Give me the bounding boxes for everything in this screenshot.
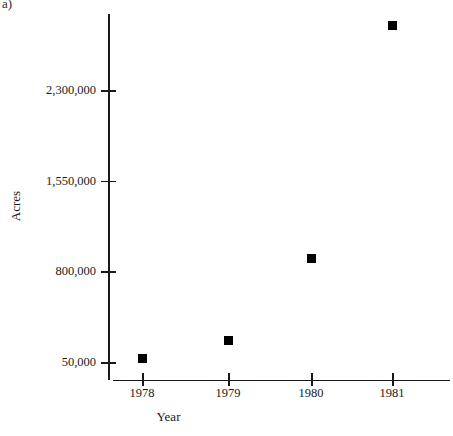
scatter-chart: a) 50,000 800,000 1,550,000 2,300,000 19… xyxy=(0,0,453,436)
x-tick-mark xyxy=(311,373,313,386)
x-tick-label: 1981 xyxy=(362,386,422,401)
x-axis-title-text: Year xyxy=(157,409,181,424)
y-tick-label: 2,300,000 xyxy=(46,83,96,98)
y-tick-mark xyxy=(101,181,116,183)
y-tick-mark xyxy=(101,362,116,364)
x-tick-mark xyxy=(142,373,144,386)
y-tick-label: 1,550,000 xyxy=(46,174,96,189)
x-tick-mark xyxy=(228,373,230,386)
y-tick-label: 800,000 xyxy=(55,264,96,279)
y-tick-mark xyxy=(101,90,116,92)
x-axis-title: Year xyxy=(0,409,453,425)
y-tick-mark xyxy=(101,271,116,273)
x-tick-label: 1979 xyxy=(198,386,258,401)
data-point xyxy=(388,21,397,30)
y-axis-line xyxy=(108,14,110,380)
data-point xyxy=(138,354,147,363)
x-tick-mark xyxy=(392,373,394,386)
x-tick-label: 1980 xyxy=(281,386,341,401)
x-tick-label: 1978 xyxy=(112,386,172,401)
data-point xyxy=(307,254,316,263)
y-tick-label: 50,000 xyxy=(62,355,96,370)
y-axis-title: Acres xyxy=(8,176,24,236)
data-point xyxy=(224,336,233,345)
x-axis-line xyxy=(113,380,450,382)
